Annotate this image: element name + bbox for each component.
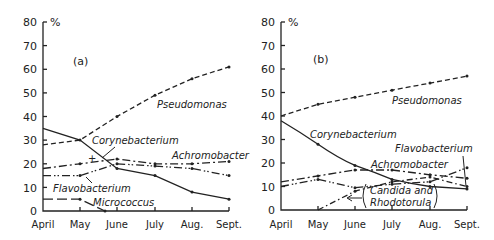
- label-b-rhodotorula: Rhodotorula: [370, 197, 431, 208]
- label-a-corynebacterium: Corynebacterium: [92, 135, 179, 146]
- ytick-a-70: 70: [23, 40, 37, 53]
- chart-figure: 0 10 20 30 40 50 60 70 80 % April May Ju…: [0, 0, 494, 240]
- ytick-a-60: 60: [23, 63, 37, 76]
- ytick-a-10: 10: [23, 182, 37, 195]
- ytick-b-10: 10: [261, 181, 275, 194]
- xtick-a-sept: Sept.: [216, 219, 242, 230]
- ylabel-a: %: [50, 16, 60, 29]
- label-a-pseudomonas: Pseudomonas: [157, 99, 227, 110]
- xtick-b-june: June: [343, 219, 366, 230]
- ytick-a-30: 30: [23, 134, 37, 147]
- ytick-a-20: 20: [23, 158, 37, 171]
- label-b-candida: Candida and: [370, 185, 434, 196]
- xtick-b-july: July: [382, 219, 401, 230]
- ytick-b-80: 80: [261, 16, 275, 29]
- xtick-b-aug: Aug.: [419, 219, 442, 230]
- panel-label-b: (b): [313, 53, 329, 66]
- ytick-b-40: 40: [261, 110, 275, 123]
- xtick-b-sept: Sept.: [454, 219, 480, 230]
- brace-left-b: [363, 184, 366, 208]
- xtick-a-aug: Aug.: [181, 219, 204, 230]
- leader-a-corynebacterium: [102, 147, 115, 158]
- label-a-achromobacter: Achromobacter: [171, 150, 250, 161]
- ytick-a-80: 80: [23, 16, 37, 29]
- brace-right-b: [434, 184, 437, 208]
- ytick-b-50: 50: [261, 87, 275, 100]
- ytick-b-60: 60: [261, 63, 275, 76]
- label-a-micrococcus: Micrococcus: [93, 197, 154, 208]
- label-b-flavobacterium: Flavobacterium: [395, 143, 473, 154]
- xtick-b-april: April: [270, 219, 293, 230]
- panel-label-a: (a): [73, 55, 88, 68]
- ytick-b-30: 30: [261, 134, 275, 147]
- plus-marker-a: +: [88, 153, 96, 164]
- xtick-a-may: May: [70, 219, 91, 230]
- xtick-b-may: May: [308, 219, 329, 230]
- label-a-flavobacterium: Flavobacterium: [53, 183, 131, 194]
- series-b-achromobacter: [281, 169, 469, 182]
- ytick-a-50: 50: [23, 87, 37, 100]
- leader-b-flavobacterium: [463, 156, 466, 186]
- ytick-b-0: 0: [268, 204, 275, 217]
- label-b-achromobacter: Achromobacter: [370, 159, 449, 170]
- xtick-a-april: April: [32, 219, 55, 230]
- ytick-b-70: 70: [261, 40, 275, 53]
- label-b-pseudomonas: Pseudomonas: [392, 95, 462, 106]
- xtick-a-june: June: [105, 219, 128, 230]
- label-b-corynebacterium: Corynebacterium: [310, 129, 397, 140]
- axes-b: [281, 22, 467, 210]
- ytick-a-40: 40: [23, 111, 37, 124]
- ytick-a-0: 0: [30, 205, 37, 218]
- ylabel-b: %: [288, 16, 298, 29]
- ytick-b-20: 20: [261, 157, 275, 170]
- xtick-a-july: July: [145, 219, 164, 230]
- panel-b: 0 10 20 30 40 50 60 70 80 % April May Ju…: [261, 16, 480, 230]
- panel-a: 0 10 20 30 40 50 60 70 80 % April May Ju…: [23, 16, 250, 230]
